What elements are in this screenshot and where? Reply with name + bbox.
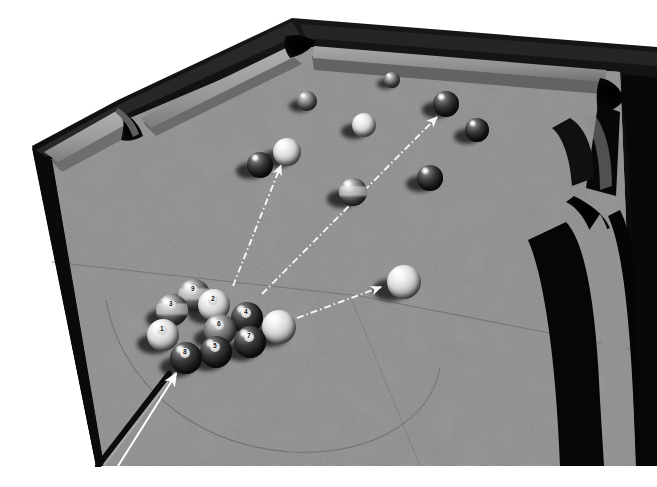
ball-specular-highlight [277, 140, 286, 147]
rack-ball: 7 [234, 326, 266, 358]
ball-specular-highlight [392, 268, 403, 277]
arrow-to-right-light-ball [297, 287, 381, 318]
ball-specular-highlight [209, 317, 219, 325]
table-ball [247, 152, 273, 178]
table-ball [417, 165, 443, 191]
table-ball [273, 138, 301, 166]
table-ball [339, 178, 367, 206]
ball-specular-highlight [175, 345, 185, 353]
ball-specular-highlight [421, 167, 429, 174]
ball-specular-highlight [386, 73, 391, 77]
table-ball [387, 265, 421, 299]
rack-ball [262, 310, 296, 344]
billiards-scene-canvas: 931826547 Billiards break shot dia [0, 0, 657, 487]
table-ball [465, 118, 489, 142]
ball-specular-highlight [161, 297, 171, 305]
ball-specular-highlight [300, 93, 306, 98]
ball-specular-highlight [267, 313, 278, 322]
table-ball [297, 91, 317, 111]
ball-specular-highlight [437, 93, 445, 100]
ball-specular-highlight [205, 339, 215, 347]
ball-specular-highlight [236, 305, 246, 313]
pool-table-scene: 931826547 [0, 0, 657, 487]
ball-specular-highlight [469, 120, 476, 126]
ball-specular-highlight [251, 154, 259, 161]
cue-stick-highlight [104, 373, 175, 465]
table-ball [384, 72, 400, 88]
cue-direction-arrow [118, 374, 176, 466]
bottom-white-margin [0, 467, 657, 487]
cue-stick [98, 374, 169, 466]
annotation-layer [0, 0, 657, 487]
table-ball [352, 113, 376, 137]
cue-stick-group [98, 373, 176, 466]
ball-specular-highlight [356, 115, 363, 121]
arrow-to-left-light-ball [233, 165, 281, 286]
rack-ball: 5 [200, 336, 232, 368]
ball-specular-highlight [183, 282, 193, 290]
table-ball [433, 91, 459, 117]
rack-ball: 8 [170, 342, 202, 374]
ball-specular-highlight [239, 329, 249, 337]
ball-specular-highlight [152, 322, 162, 330]
ball-specular-highlight [203, 292, 213, 300]
